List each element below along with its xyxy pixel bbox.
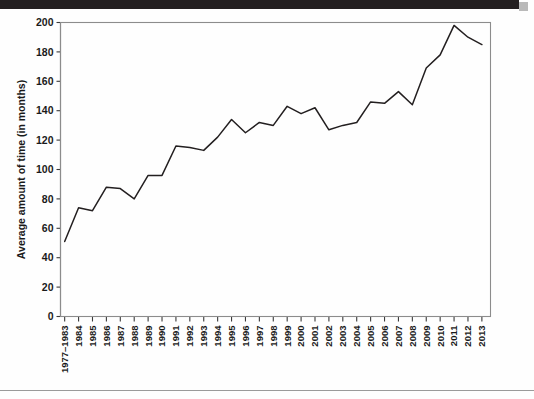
plot-border	[61, 23, 491, 317]
x-tick-label: 1994	[212, 325, 223, 347]
x-tick-label: 2007	[393, 326, 404, 347]
y-tick-label: 100	[36, 163, 54, 175]
x-tick-label: 2009	[421, 326, 432, 347]
x-tick-label: 2002	[323, 326, 334, 347]
x-tick-label: 2004	[351, 325, 362, 347]
y-tick-label: 180	[36, 46, 54, 58]
line-chart: 020406080100120140160180200 1977–1983198…	[0, 9, 534, 390]
x-tick-label: 1999	[282, 326, 293, 347]
y-tick-label: 0	[48, 310, 54, 322]
y-axis-title-text: Average amount of time (in months)	[15, 80, 27, 259]
x-tick-label: 2006	[379, 326, 390, 347]
y-axis: 020406080100120140160180200	[36, 16, 61, 322]
x-tick-label: 1997	[254, 326, 265, 347]
y-tick-label: 40	[42, 251, 54, 263]
y-tick-label: 140	[36, 104, 54, 116]
y-tick-label: 20	[42, 281, 54, 293]
x-tick-label: 2011	[448, 325, 459, 346]
x-tick-label: 1992	[184, 326, 195, 347]
x-tick-label: 1995	[226, 325, 237, 347]
x-tick-label: 1985	[87, 325, 98, 347]
chart-canvas: 020406080100120140160180200 1977–1983198…	[0, 9, 534, 390]
top-black-band	[0, 0, 519, 9]
x-tick-label: 2003	[337, 326, 348, 347]
x-tick-label: 2001	[309, 325, 320, 347]
bottom-rule	[0, 390, 534, 391]
y-tick-label: 160	[36, 75, 54, 87]
x-tick-label: 2008	[407, 326, 418, 347]
x-tick-label: 2010	[435, 326, 446, 347]
x-tick-label: 1996	[240, 326, 251, 347]
x-axis: 1977–19831984198519861987198819891990199…	[59, 317, 490, 374]
x-tick-label: 2013	[476, 326, 487, 347]
y-tick-label: 60	[42, 222, 54, 234]
y-tick-label: 80	[42, 193, 54, 205]
x-tick-label: 1993	[198, 326, 209, 347]
x-tick-label: 1986	[101, 326, 112, 347]
data-series	[65, 25, 482, 241]
x-tick-label: 1998	[268, 326, 279, 347]
series-line-path	[65, 25, 482, 241]
x-tick-label: 1977–1983	[59, 326, 70, 374]
y-axis-title: Average amount of time (in months)	[15, 80, 27, 259]
x-tick-label: 2000	[295, 326, 306, 347]
y-tick-label: 120	[36, 134, 54, 146]
x-tick-label: 1991	[170, 325, 181, 347]
y-tick-label: 200	[36, 16, 54, 28]
x-tick-label: 1989	[143, 326, 154, 347]
x-tick-label: 2005	[365, 325, 376, 347]
x-tick-label: 1984	[73, 325, 84, 347]
x-tick-label: 1987	[115, 326, 126, 347]
plot-frame	[61, 23, 491, 317]
x-tick-label: 1988	[129, 326, 140, 347]
x-tick-label: 1990	[156, 326, 167, 347]
x-tick-label: 2012	[462, 326, 473, 347]
page-root: 020406080100120140160180200 1977–1983198…	[0, 0, 534, 399]
